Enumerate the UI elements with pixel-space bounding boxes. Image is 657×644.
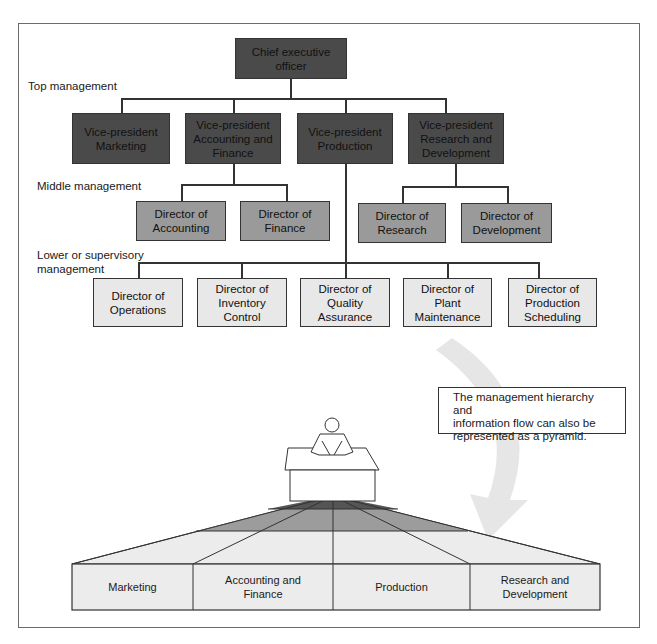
vp-marketing-box: Vice-president Marketing [72,113,170,164]
connector [402,186,404,203]
director-quality-assurance-box: Director of Quality Assurance [300,278,390,327]
connector [121,98,123,113]
pyramid-section-production: Production [333,564,470,610]
connector [345,98,347,113]
connector [290,78,292,98]
level-label-middle: Middle management [37,179,141,193]
director-finance-box: Director of Finance [240,201,330,241]
director-accounting-box: Director of Accounting [136,201,226,241]
pyramid-section-marketing: Marketing [72,564,193,610]
vp-accounting-finance-box: Vice-president Accounting and Finance [185,113,281,164]
connector [445,98,447,113]
connector [181,184,287,186]
director-plant-maintenance-box: Director of Plant Maintenance [403,278,492,327]
connector [447,262,449,278]
connector [241,262,243,278]
connector [233,98,235,113]
director-operations-box: Director of Operations [93,278,183,327]
vp-research-development-box: Vice-president Research and Development [408,113,504,164]
connector [181,184,183,201]
connector [507,186,509,203]
connector [233,164,235,184]
connector [345,164,347,278]
director-inventory-control-box: Director of Inventory Control [197,278,287,327]
pyramid-section-research-development: Research and Development [470,564,600,610]
connector [402,186,508,188]
ceo-box: Chief executive officer [235,38,347,79]
pyramid-section-accounting-finance: Accounting and Finance [193,564,333,610]
level-label-top: Top management [28,79,117,93]
connector [455,164,457,186]
pyramid-note: The management hierarchy and information… [438,387,626,434]
connector [138,262,539,264]
connector [138,262,140,278]
manager-at-desk-icon [285,418,379,501]
level-label-lower: Lower or supervisory management [37,248,144,276]
vp-production-box: Vice-president Production [297,113,393,164]
director-production-scheduling-box: Director of Production Scheduling [508,278,597,327]
connector [121,98,445,100]
director-development-box: Director of Development [461,203,552,243]
director-research-box: Director of Research [358,203,446,243]
connector [286,184,288,201]
connector [538,262,540,278]
